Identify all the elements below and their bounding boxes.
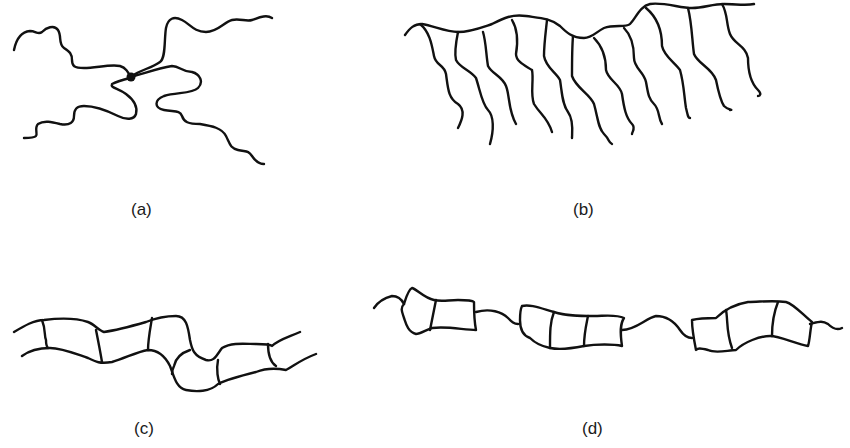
comb-tooth [572,36,612,144]
linear-segment-1 [476,310,518,324]
star-arm-upper-right [132,16,272,76]
ladder-rung [217,360,220,384]
ladder-block-3 [692,301,812,352]
block-rung [550,312,554,348]
panel-a-star [14,16,272,164]
block-rung [430,300,436,330]
star-arm-upper-left [14,27,130,76]
comb-tooth [688,8,731,110]
panel-d-ladder-blocks [374,288,842,352]
panel-label-d: (d) [582,419,603,439]
block-rung [772,302,778,336]
ladder-rung [42,320,48,348]
block-outline [402,288,476,334]
comb-tooth [594,38,634,134]
comb-tooth [455,32,493,144]
star-core-node [127,73,136,82]
ladder-rung [268,344,276,366]
block-outline [520,305,624,348]
panel-b-comb [405,4,760,144]
ladder-rung [96,330,102,362]
ladder-rung [148,318,152,350]
panel-c-ladder [14,316,316,391]
comb-tooth [544,20,572,138]
figure-canvas [0,0,850,448]
ladder-block-1 [402,288,476,334]
block-rung [584,316,588,346]
comb-tooth [722,4,760,96]
linear-segment-start [374,296,404,308]
star-arm-lower-left [24,78,137,138]
block-outline [692,301,812,352]
panel-label-c: (c) [134,419,154,439]
ladder-rung [172,350,190,374]
linear-segment-2 [622,316,692,338]
ladder-rail-lower [22,348,316,391]
ladder-block-2 [520,305,624,348]
panel-label-a: (a) [131,200,152,220]
comb-side-chains [420,4,760,144]
ladder-rail-upper [14,316,300,360]
linear-segment-end [810,322,842,330]
block-rung [726,310,732,348]
ladder-rungs [42,318,276,384]
comb-tooth [624,28,662,124]
panel-label-b: (b) [573,200,594,220]
star-arm-lower-right [134,66,264,164]
